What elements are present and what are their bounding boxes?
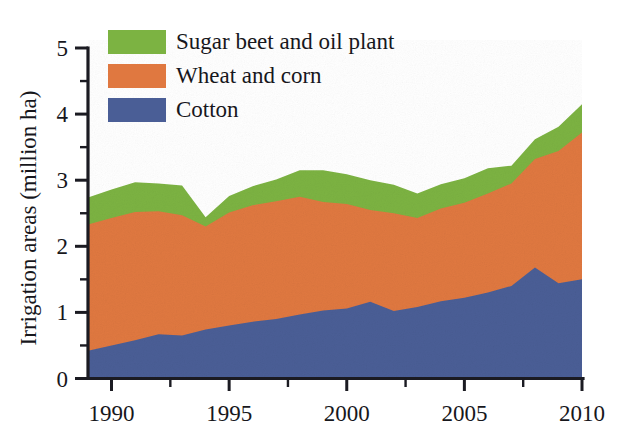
legend-item-wheat-corn: Wheat and corn — [108, 63, 322, 88]
x-tick-label-2010: 2010 — [559, 401, 605, 426]
y-tick-label-5: 5 — [57, 36, 69, 61]
x-tick-label-1995: 1995 — [206, 401, 252, 426]
legend-label-sugar-beet: Sugar beet and oil plant — [176, 29, 395, 54]
legend-label-cotton: Cotton — [176, 97, 239, 122]
x-tick-label-2005: 2005 — [441, 401, 487, 426]
y-tick-label-1: 1 — [57, 300, 69, 325]
y-tick-label-2: 2 — [57, 234, 69, 259]
x-tick-label-1990: 1990 — [89, 401, 135, 426]
legend-item-sugar-beet: Sugar beet and oil plant — [108, 29, 395, 54]
stacked-area-chart: 543210 19901995200020052010 Irrigation a… — [0, 0, 633, 445]
y-tick-label-3: 3 — [57, 168, 69, 193]
y-axis-title: Irrigation areas (million ha) — [16, 91, 41, 346]
legend-label-wheat-corn: Wheat and corn — [176, 63, 322, 88]
paper-grain-overlay — [88, 40, 582, 380]
legend-swatch-cotton — [108, 98, 166, 122]
y-tick-label-4: 4 — [57, 102, 69, 127]
chart-figure: 543210 19901995200020052010 Irrigation a… — [0, 0, 633, 445]
legend-swatch-wheat-corn — [108, 64, 166, 88]
legend-swatch-sugar-beet — [108, 30, 166, 54]
area-series-group — [88, 40, 582, 380]
y-tick-label-0: 0 — [57, 367, 69, 392]
x-tick-label-2000: 2000 — [324, 401, 370, 426]
